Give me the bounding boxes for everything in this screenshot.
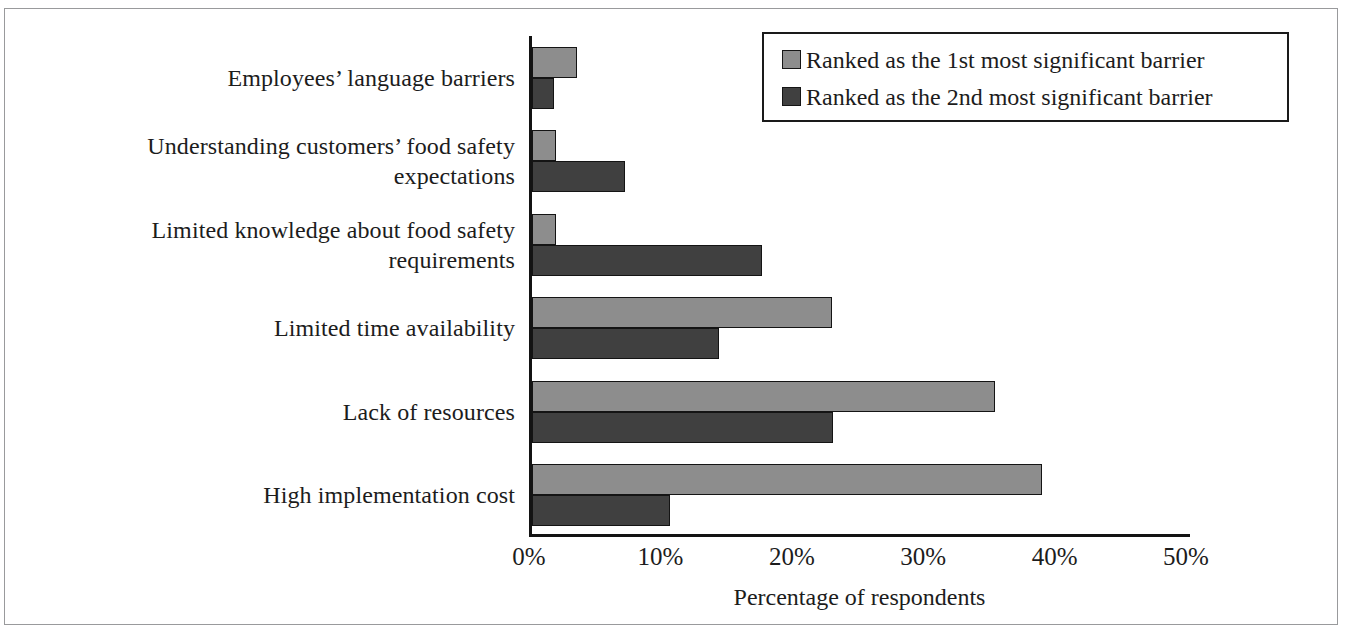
x-axis-tick: 50% [1131, 541, 1241, 573]
y-axis-label: Understanding customers’ food safetyexpe… [45, 131, 515, 191]
chart-legend: Ranked as the 1st most significant barri… [762, 32, 1289, 122]
bar-series-1 [532, 47, 577, 78]
y-axis-label: Limited time availability [45, 313, 515, 343]
x-axis-tick: 10% [605, 541, 715, 573]
bar-series-2 [532, 245, 762, 276]
legend-label-series-2: Ranked as the 2nd most significant barri… [806, 83, 1213, 111]
y-axis-label-line: Limited time availability [45, 313, 515, 343]
bar-series-2 [532, 78, 554, 109]
y-axis-label: Lack of resources [45, 397, 515, 427]
y-axis-label-line: Employees’ language barriers [45, 63, 515, 93]
y-axis-label-line: Limited knowledge about food safety [45, 215, 515, 245]
bar-series-1 [532, 464, 1042, 495]
bar-series-2 [532, 495, 670, 526]
series-2-swatch-icon [782, 87, 801, 106]
x-axis-tick: 30% [868, 541, 978, 573]
bar-series-1 [532, 130, 556, 161]
bar-series-2 [532, 161, 625, 192]
bar-series-2 [532, 412, 833, 443]
y-axis-label-line: High implementation cost [45, 480, 515, 510]
y-axis-label-line: Understanding customers’ food safety [45, 131, 515, 161]
y-axis-label: Limited knowledge about food safetyrequi… [45, 215, 515, 275]
bar-group [532, 203, 1186, 287]
x-axis-tick: 40% [1000, 541, 1110, 573]
x-axis-tick-labels: 0%10%20%30%40%50% [529, 541, 1190, 575]
bar-group [532, 454, 1186, 538]
x-axis-title: Percentage of respondents [529, 582, 1190, 612]
series-1-swatch-icon [782, 50, 801, 69]
legend-item-series-1: Ranked as the 1st most significant barri… [782, 41, 1287, 78]
y-axis-label: Employees’ language barriers [45, 63, 515, 93]
bar-series-1 [532, 297, 832, 328]
bar-group [532, 370, 1186, 454]
x-axis-tick: 20% [737, 541, 847, 573]
legend-label-series-1: Ranked as the 1st most significant barri… [806, 46, 1205, 74]
y-axis-label: High implementation cost [45, 480, 515, 510]
y-axis-label-line: requirements [45, 245, 515, 275]
chart-figure-frame: Employees’ language barriersUnderstandin… [4, 8, 1338, 625]
bar-series-2 [532, 328, 719, 359]
bar-group [532, 287, 1186, 371]
legend-item-series-2: Ranked as the 2nd most significant barri… [782, 78, 1287, 115]
y-axis-category-labels: Employees’ language barriersUnderstandin… [35, 36, 515, 537]
bar-series-1 [532, 214, 556, 245]
y-axis-label-line: expectations [45, 161, 515, 191]
bar-group [532, 120, 1186, 204]
x-axis-tick: 0% [474, 541, 584, 573]
y-axis-label-line: Lack of resources [45, 397, 515, 427]
bar-series-1 [532, 381, 995, 412]
